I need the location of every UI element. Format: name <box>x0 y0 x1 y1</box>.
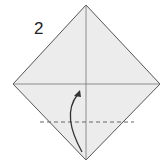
step-number: 2 <box>34 20 43 37</box>
paper-diagram <box>0 0 168 163</box>
origami-diagram: 2 <box>0 0 168 163</box>
